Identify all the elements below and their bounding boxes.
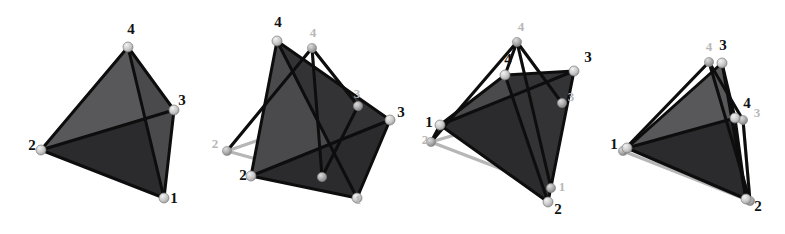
- vertex-label-2: 2: [212, 136, 219, 151]
- gray-vertex-node: [353, 101, 362, 110]
- vertex-label-4: 4: [310, 25, 317, 40]
- vertex-node: [741, 194, 751, 204]
- vertex-label-3: 3: [584, 49, 592, 65]
- vertex-node: [159, 193, 169, 203]
- vertex-node: [543, 197, 553, 207]
- vertex-node: [123, 42, 133, 52]
- vertex-label-4: 4: [127, 21, 135, 37]
- vertex-label-1: 1: [559, 179, 566, 194]
- vertex-node: [272, 36, 282, 46]
- vertex-label-4: 4: [743, 95, 751, 111]
- vertex-label-2: 2: [28, 137, 36, 153]
- vertex-node: [622, 143, 632, 153]
- vertex-node: [246, 171, 256, 181]
- vertex-node: [730, 113, 740, 123]
- vertex-label-3: 3: [178, 92, 186, 108]
- vertex-label-4: 4: [518, 19, 525, 34]
- vertex-label-3: 3: [397, 104, 405, 120]
- vertex-node: [500, 70, 510, 80]
- vertex-label-1: 1: [425, 114, 433, 130]
- vertex-label-2: 2: [754, 198, 762, 214]
- gray-vertex-node: [317, 172, 326, 181]
- figure-canvas: 4321443322144311232434312: [0, 0, 785, 234]
- vertex-label-3: 3: [719, 37, 727, 53]
- vertex-label-2: 2: [422, 132, 429, 147]
- vertex-label-3: 3: [754, 105, 761, 120]
- vertex-label-1: 1: [355, 192, 362, 207]
- tetrahedra-registration-figure: 4321443322144311232434312: [0, 0, 785, 234]
- vertex-node: [385, 115, 395, 125]
- vertex-label-4: 4: [706, 39, 713, 54]
- vertex-label-4: 4: [504, 51, 512, 67]
- gray-vertex-node: [546, 183, 555, 192]
- vertex-label-2: 2: [239, 167, 247, 183]
- gray-vertex-node: [512, 37, 521, 46]
- vertex-node: [36, 145, 46, 155]
- vertex-node: [435, 120, 445, 130]
- vertex-label-1: 1: [610, 136, 618, 152]
- vertex-label-4: 4: [274, 14, 282, 30]
- vertex-node: [717, 58, 727, 68]
- gray-vertex-node: [557, 98, 566, 107]
- vertex-label-2: 2: [554, 201, 562, 217]
- vertex-node: [569, 66, 579, 76]
- gray-vertex-node: [307, 43, 316, 52]
- vertex-label-3: 3: [354, 86, 361, 101]
- gray-vertex-node: [222, 146, 231, 155]
- vertex-label-3: 3: [568, 89, 575, 104]
- gray-vertex-node: [704, 57, 713, 66]
- vertex-label-1: 1: [170, 190, 178, 206]
